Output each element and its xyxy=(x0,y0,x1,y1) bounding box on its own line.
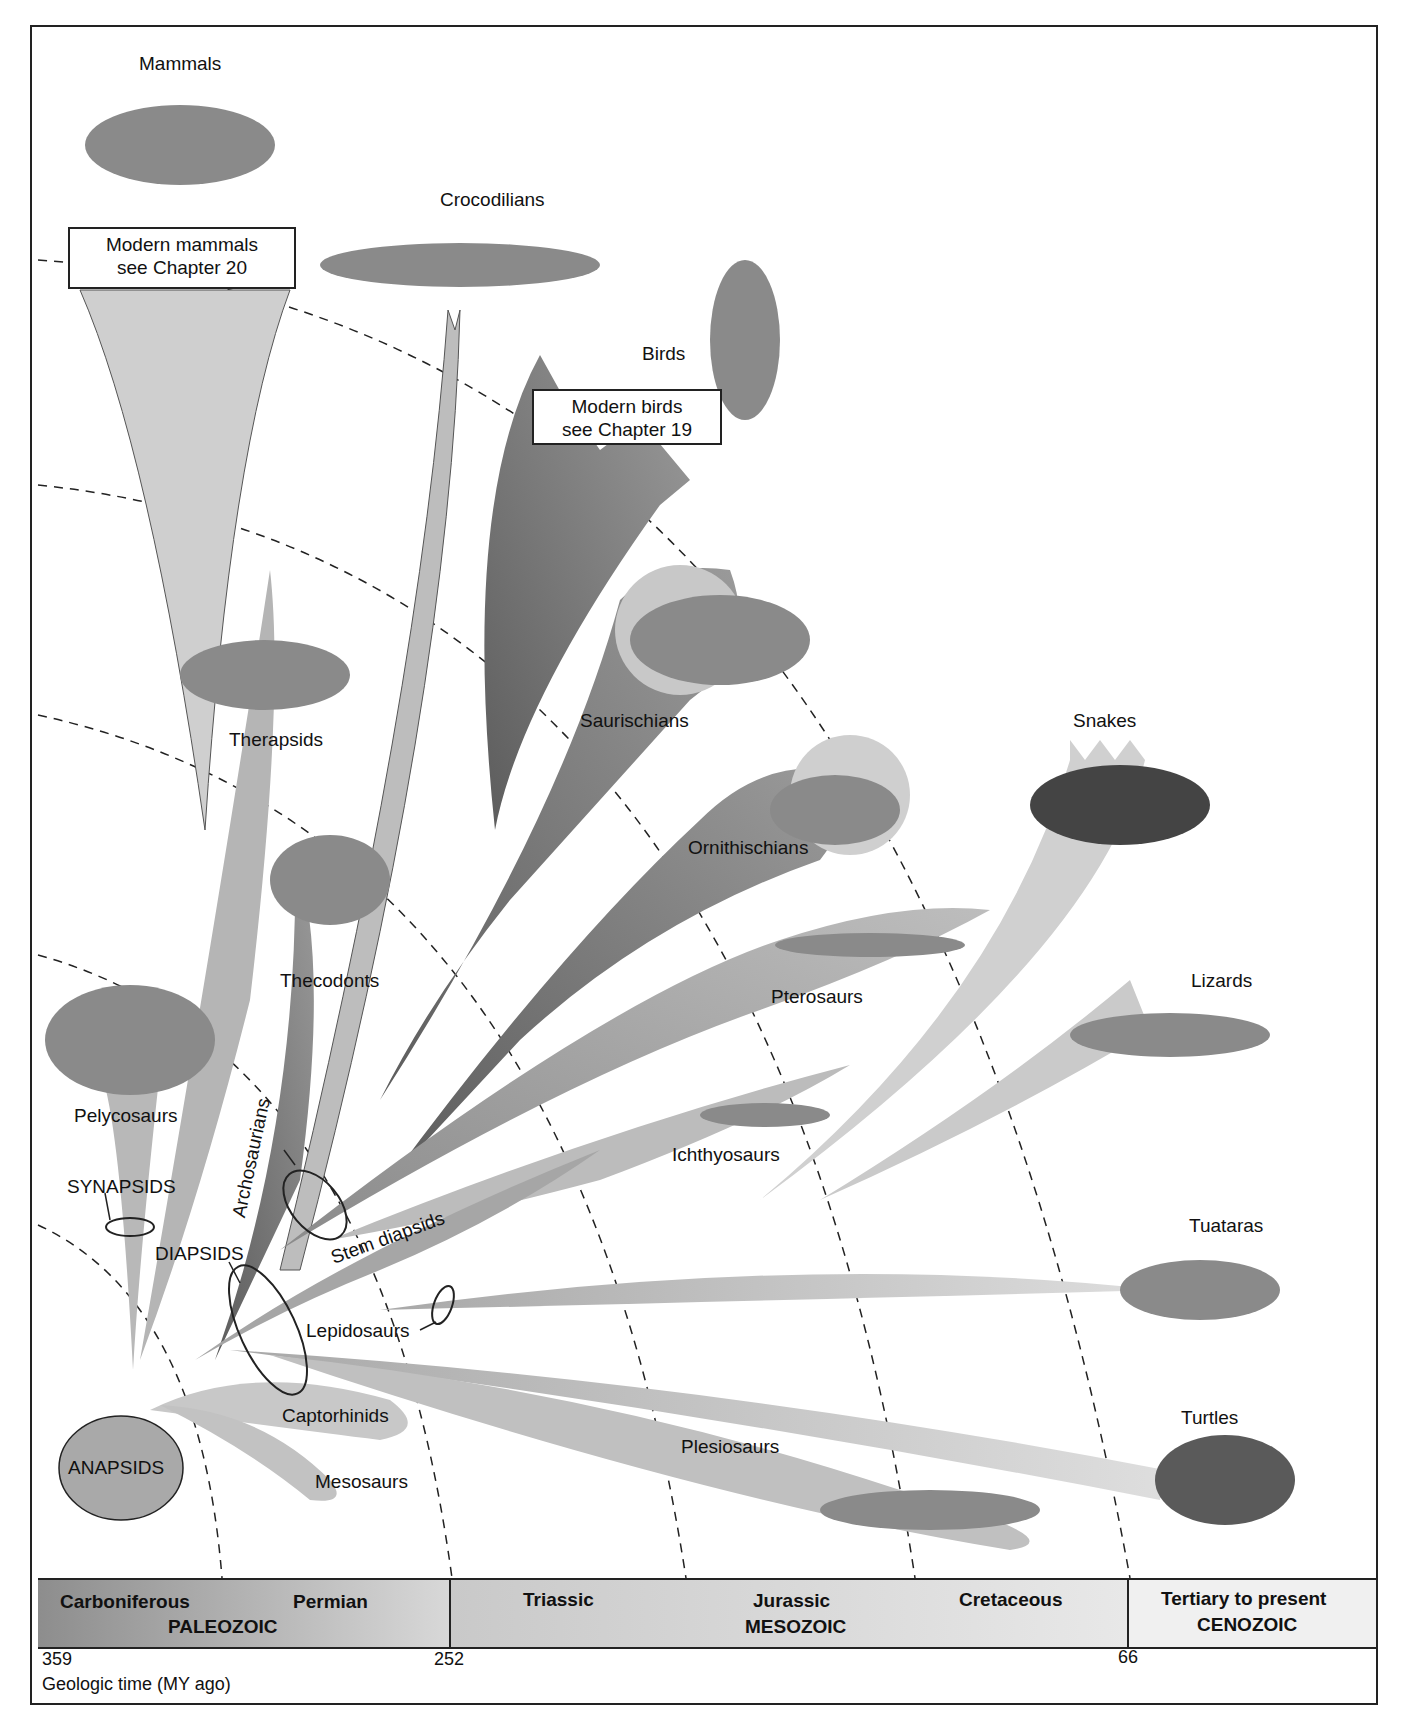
geologic-timeline: Carboniferous Permian PALEOZOIC Triassic… xyxy=(38,1578,1376,1649)
label-mammals: Mammals xyxy=(139,53,221,75)
era-paleozoic-label: PALEOZOIC xyxy=(168,1616,277,1638)
label-turtles: Turtles xyxy=(1181,1407,1238,1429)
period-jurassic: Jurassic xyxy=(753,1590,830,1612)
era-mesozoic: Triassic Jurassic Cretaceous MESOZOIC xyxy=(451,1580,1129,1647)
therapsid-illustration xyxy=(180,640,350,710)
era-cenozoic-label: CENOZOIC xyxy=(1197,1614,1297,1636)
period-permian: Permian xyxy=(293,1591,368,1613)
period-triassic: Triassic xyxy=(523,1589,594,1611)
era-mesozoic-label: MESOZOIC xyxy=(745,1616,846,1638)
ornithischian-illustration xyxy=(770,775,900,845)
label-plesiosaurs: Plesiosaurs xyxy=(681,1436,779,1458)
label-mesosaurs: Mesosaurs xyxy=(315,1471,408,1493)
thecodont-illustration xyxy=(270,835,390,925)
label-therapsids: Therapsids xyxy=(229,729,323,751)
label-tuataras: Tuataras xyxy=(1189,1215,1263,1237)
label-synapsids: SYNAPSIDS xyxy=(67,1176,176,1198)
label-pelycosaurs: Pelycosaurs xyxy=(74,1105,178,1127)
fox-illustration xyxy=(85,105,275,185)
era-paleozoic: Carboniferous Permian PALEOZOIC xyxy=(38,1580,451,1647)
modern-birds-callout: Modern birds see Chapter 19 xyxy=(532,389,722,445)
label-ornithischians: Ornithischians xyxy=(688,837,808,859)
label-birds: Birds xyxy=(642,343,685,365)
label-crocodilians: Crocodilians xyxy=(440,189,545,211)
snake-illustration xyxy=(1030,765,1210,845)
geologic-time-axis: 359 252 66 Geologic time (MY ago) xyxy=(38,1645,1376,1703)
label-thecodonts: Thecodonts xyxy=(280,970,379,992)
label-lizards: Lizards xyxy=(1191,970,1252,992)
tick-66: 66 xyxy=(1118,1647,1138,1668)
dimetrodon-illustration xyxy=(45,985,215,1095)
period-cretaceous: Cretaceous xyxy=(959,1589,1063,1611)
turtle-illustration xyxy=(1155,1435,1295,1525)
tuataras-branch xyxy=(380,1274,1160,1310)
axis-label: Geologic time (MY ago) xyxy=(42,1674,231,1695)
pterosaur-illustration xyxy=(775,933,965,957)
crocodile-illustration xyxy=(320,243,600,287)
period-tertiary: Tertiary to present xyxy=(1161,1588,1326,1610)
sauropod-illustration xyxy=(630,595,810,685)
label-pterosaurs: Pterosaurs xyxy=(771,986,863,1008)
pterosaurs-branch xyxy=(280,908,990,1250)
tick-252: 252 xyxy=(434,1649,464,1670)
label-captorhinids: Captorhinids xyxy=(282,1405,389,1427)
tick-359: 359 xyxy=(42,1649,72,1670)
label-saurischians: Saurischians xyxy=(580,710,689,732)
label-ichthyosaurs: Ichthyosaurs xyxy=(672,1144,780,1166)
period-carboniferous: Carboniferous xyxy=(60,1591,190,1613)
ichthyosaur-illustration xyxy=(700,1103,830,1127)
label-anapsids: ANAPSIDS xyxy=(68,1457,164,1479)
label-lepidosaurs: Lepidosaurs xyxy=(306,1320,410,1342)
label-diapsids: DIAPSIDS xyxy=(155,1243,244,1265)
tuatara-illustration xyxy=(1120,1260,1280,1320)
lizards-branch xyxy=(820,980,1150,1200)
modern-mammals-callout: Modern mammals see Chapter 20 xyxy=(68,227,296,289)
era-cenozoic: Tertiary to present CENOZOIC xyxy=(1129,1580,1376,1647)
lizard-illustration xyxy=(1070,1013,1270,1057)
label-snakes: Snakes xyxy=(1073,710,1136,732)
plesiosaur-illustration xyxy=(820,1490,1040,1530)
